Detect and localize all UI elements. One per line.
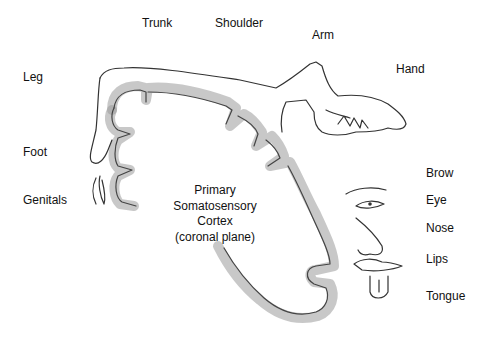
tongue-drawing <box>370 276 388 298</box>
genitals-drawing <box>93 176 105 204</box>
label-trunk: Trunk <box>142 16 172 30</box>
label-leg: Leg <box>23 70 43 84</box>
cortex-title: Primary Somatosensory Cortex (coronal pl… <box>160 183 270 245</box>
lips-drawing <box>354 259 402 271</box>
eye-pupil <box>368 202 372 206</box>
label-foot: Foot <box>23 145 47 159</box>
nose-drawing <box>356 218 382 255</box>
label-nose: Nose <box>426 221 454 235</box>
label-arm: Arm <box>312 28 334 42</box>
label-brow: Brow <box>426 166 453 180</box>
brow-drawing <box>346 188 386 194</box>
cortex-title-line-3: Cortex <box>160 214 270 230</box>
cortex-title-line-4: (coronal plane) <box>160 230 270 246</box>
label-hand: Hand <box>396 62 425 76</box>
homunculus-drawing <box>0 0 488 340</box>
label-eye: Eye <box>426 193 447 207</box>
label-tongue: Tongue <box>426 289 465 303</box>
label-shoulder: Shoulder <box>215 16 263 30</box>
label-genitals: Genitals <box>23 193 67 207</box>
hand-fingers <box>326 110 368 128</box>
cortex-title-line-1: Primary <box>160 183 270 199</box>
cortex-title-line-2: Somatosensory <box>160 199 270 215</box>
label-lips: Lips <box>426 252 448 266</box>
